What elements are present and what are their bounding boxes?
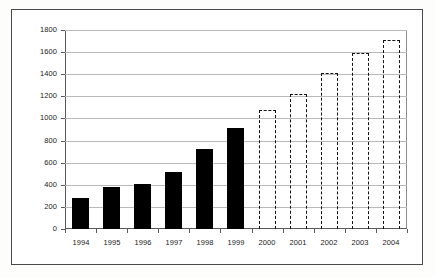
x-axis-tick-mark <box>407 229 408 233</box>
y-axis-tick-label: 1400 <box>0 69 57 78</box>
x-axis-tick-mark <box>65 229 66 233</box>
x-axis-tick-mark <box>283 229 284 233</box>
x-axis-tick-mark <box>189 229 190 233</box>
y-axis-tick-mark <box>61 74 65 75</box>
y-axis-tick-mark <box>61 52 65 53</box>
y-axis-tick-mark <box>61 30 65 31</box>
x-axis-tick-mark <box>314 229 315 233</box>
bar-forecast <box>321 73 338 229</box>
bar-forecast <box>290 94 307 229</box>
y-axis-tick-mark <box>61 163 65 164</box>
bar-forecast <box>259 110 276 229</box>
x-axis-tick-mark <box>158 229 159 233</box>
bar-actual <box>134 184 151 229</box>
y-axis-tick-mark <box>61 141 65 142</box>
bar-forecast <box>352 53 369 229</box>
bar-actual <box>103 187 120 229</box>
y-axis-tick-label: 1800 <box>0 25 57 34</box>
y-axis-tick-label: 200 <box>0 202 57 211</box>
bar-forecast <box>383 40 400 229</box>
gridline <box>65 30 407 31</box>
y-axis-tick-label: 1600 <box>0 47 57 56</box>
y-axis-tick-mark <box>61 96 65 97</box>
bar-actual <box>227 128 244 229</box>
y-axis-tick-label: 800 <box>0 136 57 145</box>
x-axis-tick-mark <box>345 229 346 233</box>
y-axis-tick-label: 0 <box>0 224 57 233</box>
y-axis-tick-mark <box>61 185 65 186</box>
bar-actual <box>165 172 182 229</box>
x-axis-tick-mark <box>96 229 97 233</box>
y-axis-tick-label: 1000 <box>0 113 57 122</box>
y-axis-tick-mark <box>61 207 65 208</box>
y-axis-tick-label: 1200 <box>0 91 57 100</box>
y-axis-tick-mark <box>61 118 65 119</box>
x-axis-tick-mark <box>220 229 221 233</box>
y-axis-tick-label: 600 <box>0 158 57 167</box>
x-axis-tick-mark <box>252 229 253 233</box>
bar-actual <box>196 149 213 229</box>
x-axis-tick-mark <box>376 229 377 233</box>
chart-figure: 020040060080010001200140016001800 199419… <box>0 0 435 277</box>
x-axis-tick-mark <box>127 229 128 233</box>
x-axis-tick-label: 2004 <box>373 238 409 247</box>
plot-wrapper: 020040060080010001200140016001800 199419… <box>0 0 435 277</box>
y-axis-tick-label: 400 <box>0 180 57 189</box>
bar-actual <box>72 198 89 229</box>
